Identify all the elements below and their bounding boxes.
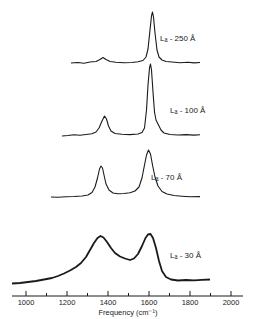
series-label-la-30: Lₐ - 30 Å <box>170 251 202 260</box>
trace-la-100 <box>62 64 200 136</box>
x-axis-title: Frequency (cm⁻¹) <box>98 308 158 317</box>
x-tick-label: 1400 <box>100 298 117 307</box>
x-tick-label: 2000 <box>223 298 240 307</box>
series-label-la-250: Lₐ - 250 Å <box>160 34 196 43</box>
x-tick-label: 1600 <box>141 298 158 307</box>
x-tick-label: 1800 <box>182 298 199 307</box>
series-label-la-100: Lₐ - 100 Å <box>170 106 206 115</box>
series-label-la-70: Lₐ - 70 Å <box>151 173 183 182</box>
x-tick-label: 1000 <box>18 298 35 307</box>
x-tick-label: 1200 <box>59 298 76 307</box>
raman-spectra-chart: Lₐ - 250 Å Lₐ - 100 Å Lₐ - 70 Å Lₐ - 30 … <box>0 0 253 319</box>
